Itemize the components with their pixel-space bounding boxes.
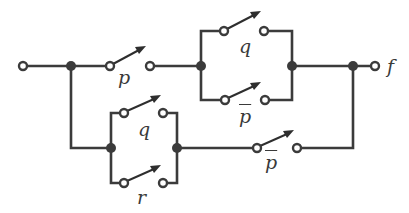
junction-dot xyxy=(287,61,297,71)
junction-dot xyxy=(348,61,358,71)
terminals xyxy=(19,27,379,187)
switch-pbar-bottom-terminal-left xyxy=(253,144,261,152)
switch-q-top-terminal-right xyxy=(260,27,268,35)
output-label: f xyxy=(387,57,394,76)
switch-pbar-bottom-terminal-right xyxy=(293,144,301,152)
switch-q-top-lever xyxy=(227,15,254,29)
switch-pbar-top-terminal-right xyxy=(261,96,269,104)
switch-pbar-top-lever xyxy=(228,86,254,98)
switch-p-label: p xyxy=(118,68,130,87)
junction-dot xyxy=(106,143,116,153)
switch-q-bottom-terminal-right xyxy=(159,109,167,117)
wires xyxy=(27,31,371,183)
output-terminal xyxy=(371,62,379,70)
junction-dot xyxy=(196,61,206,71)
switch-q-top-label: q xyxy=(239,37,251,56)
wire-lower-branch-left xyxy=(71,66,111,148)
switch-pbar-top-terminal-left xyxy=(221,96,229,104)
switch-p-lever xyxy=(113,50,139,64)
switch-r-lever xyxy=(127,169,154,181)
switch-q-top-terminal-left xyxy=(220,27,228,35)
switching-circuit-diagram: p q p q r p f xyxy=(0,0,409,213)
switch-q-top-arrow-icon xyxy=(250,11,261,19)
switch-r-terminal-right xyxy=(159,179,167,187)
switch-r-label: r xyxy=(137,188,146,207)
switch-pbar-top-label: p xyxy=(239,107,251,126)
switch-q-bottom-terminal-left xyxy=(120,109,128,117)
switch-p-terminal-left xyxy=(106,62,114,70)
junction-dot xyxy=(172,143,182,153)
wire-lower-return xyxy=(301,66,353,148)
switch-pbar-bottom-lever xyxy=(260,134,287,146)
circuit-drawing xyxy=(0,0,409,213)
switch-r-terminal-left xyxy=(120,179,128,187)
switch-p-terminal-right xyxy=(146,62,154,70)
switch-q-bottom-lever xyxy=(127,99,154,111)
input-terminal xyxy=(19,62,27,70)
junction-dot xyxy=(66,61,76,71)
switch-pbar-bottom-label: p xyxy=(265,153,277,172)
switch-p-arrow-icon xyxy=(135,46,146,54)
switch-q-bottom-label: q xyxy=(138,120,150,139)
